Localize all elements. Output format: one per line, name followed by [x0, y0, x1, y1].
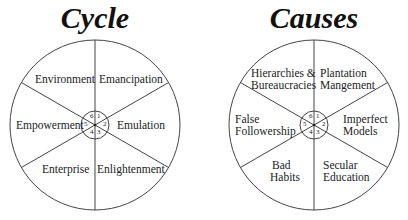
causes-segment-6-line2: Bureaucracies: [251, 79, 316, 91]
cycle-segment-4-label: Enterprise: [42, 163, 89, 175]
causes-segment-1-label: Plantation Mangement: [320, 67, 375, 91]
causes-segment-4-line2: Habits: [270, 171, 300, 183]
causes-segment-3-line2: Education: [323, 171, 370, 183]
causes-hub-number-6: 6: [309, 113, 313, 120]
cycle-hub-number-3: 3: [97, 129, 101, 136]
causes-segment-5-line1: False: [235, 113, 296, 125]
cycle-hub-number-1: 1: [97, 113, 101, 120]
causes-hub-number-2: 2: [322, 121, 326, 128]
cycle-segment-6-label: Environment: [35, 73, 95, 85]
cycle-segment-2-label: Emulation: [117, 119, 165, 131]
causes-segment-3-line1: Secular: [323, 159, 370, 171]
causes-hub-number-3: 3: [316, 129, 320, 136]
cycle-hub-number-5: 5: [84, 121, 88, 128]
causes-segment-6-label: Hierarchies & Bureaucracies: [251, 67, 316, 91]
causes-segment-4-label: Bad Habits: [270, 159, 300, 183]
causes-segment-2-label: Imperfect Models: [343, 113, 388, 137]
cycle-segment-3-label: Enlightenment: [97, 163, 165, 175]
causes-segment-2-line2: Models: [343, 125, 388, 137]
cycle-title: Cycle: [35, 1, 155, 35]
causes-segment-1-line1: Plantation: [320, 67, 375, 79]
causes-title: Causes: [254, 1, 374, 35]
causes-segment-3-label: Secular Education: [323, 159, 370, 183]
cycle-segment-1-label: Emancipation: [99, 73, 163, 85]
causes-hub-number-5: 5: [303, 121, 307, 128]
cycle-hub-number-6: 6: [90, 113, 94, 120]
cycle-hub-number-2: 2: [103, 121, 107, 128]
causes-hub-number-4: 4: [309, 129, 313, 136]
causes-segment-6-line1: Hierarchies &: [251, 67, 316, 79]
causes-segment-1-line2: Mangement: [320, 79, 375, 91]
causes-hub-number-1: 1: [316, 113, 320, 120]
cycle-hub-number-4: 4: [90, 129, 94, 136]
causes-segment-2-line1: Imperfect: [343, 113, 388, 125]
causes-segment-4-line1: Bad: [270, 159, 300, 171]
causes-segment-5-label: False Followership: [235, 113, 296, 137]
causes-segment-5-line2: Followership: [235, 125, 296, 137]
cycle-segment-5-label: Empowerment: [16, 119, 84, 131]
